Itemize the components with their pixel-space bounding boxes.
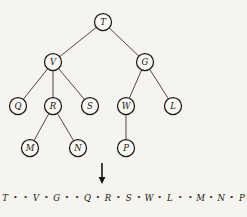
tree-node-l[interactable]: L bbox=[165, 98, 182, 115]
sequence-key-n: N bbox=[216, 188, 226, 208]
tree-nodes-group: TVGQRSWLMNP bbox=[10, 14, 182, 157]
arrow-head bbox=[99, 177, 106, 184]
tree-node-label: P bbox=[122, 143, 129, 153]
sequence-null-marker: • bbox=[72, 188, 82, 208]
tree-node-label: M bbox=[25, 143, 35, 153]
sequence-null-marker: • bbox=[113, 188, 123, 208]
tree-node-label: L bbox=[169, 101, 176, 111]
sequence-key-t: T bbox=[0, 188, 10, 208]
traversal-sequence: T••V•G••Q•R•S•W•L••M•N•P bbox=[0, 188, 247, 208]
tree-node-label: N bbox=[73, 143, 82, 153]
sequence-key-w: W bbox=[144, 188, 154, 208]
sequence-key-r: R bbox=[103, 188, 113, 208]
tree-edge-r-m bbox=[34, 113, 49, 140]
tree-node-label: Q bbox=[15, 101, 22, 111]
downward-arrow-icon bbox=[99, 163, 106, 184]
sequence-null-marker: • bbox=[10, 188, 20, 208]
tree-edge-g-w bbox=[129, 70, 141, 98]
sequence-null-marker: • bbox=[93, 188, 103, 208]
tree-node-m[interactable]: M bbox=[22, 140, 39, 157]
sequence-null-marker: • bbox=[134, 188, 144, 208]
tree-node-g[interactable]: G bbox=[137, 54, 154, 71]
tree-edge-t-v bbox=[60, 27, 97, 56]
sequence-null-marker: • bbox=[185, 188, 195, 208]
sequence-key-l: L bbox=[165, 188, 175, 208]
tree-node-p[interactable]: P bbox=[118, 140, 135, 157]
tree-edge-v-s bbox=[58, 69, 84, 100]
tree-edge-v-q bbox=[23, 69, 47, 100]
tree-node-label: V bbox=[50, 57, 57, 67]
tree-node-label: W bbox=[122, 101, 132, 111]
sequence-null-marker: • bbox=[226, 188, 236, 208]
sequence-null-marker: • bbox=[154, 188, 164, 208]
tree-node-label: S bbox=[87, 101, 93, 111]
tree-node-v[interactable]: V bbox=[45, 54, 62, 71]
sequence-key-p: P bbox=[237, 188, 247, 208]
tree-node-label: G bbox=[142, 57, 149, 67]
sequence-key-v: V bbox=[31, 188, 41, 208]
tree-edge-t-g bbox=[109, 28, 139, 56]
sequence-key-s: S bbox=[124, 188, 134, 208]
tree-figure: TVGQRSWLMNP T••V•G••Q•R•S•W•L••M•N•P bbox=[0, 0, 247, 217]
sequence-key-g: G bbox=[51, 188, 61, 208]
tree-node-s[interactable]: S bbox=[82, 98, 99, 115]
tree-node-label: R bbox=[49, 101, 57, 111]
sequence-null-marker: • bbox=[21, 188, 31, 208]
tree-edges-group bbox=[23, 27, 168, 140]
tree-node-t[interactable]: T bbox=[95, 14, 112, 31]
sequence-key-m: M bbox=[196, 188, 206, 208]
tree-node-r[interactable]: R bbox=[45, 98, 62, 115]
tree-node-n[interactable]: N bbox=[70, 140, 87, 157]
tree-edge-r-n bbox=[57, 113, 73, 140]
sequence-null-marker: • bbox=[41, 188, 51, 208]
tree-node-w[interactable]: W bbox=[118, 98, 135, 115]
sequence-key-q: Q bbox=[82, 188, 92, 208]
sequence-null-marker: • bbox=[175, 188, 185, 208]
tree-edge-g-l bbox=[150, 69, 169, 99]
sequence-null-marker: • bbox=[62, 188, 72, 208]
tree-diagram-svg: TVGQRSWLMNP bbox=[0, 0, 247, 217]
tree-node-q[interactable]: Q bbox=[10, 98, 27, 115]
sequence-null-marker: • bbox=[206, 188, 216, 208]
